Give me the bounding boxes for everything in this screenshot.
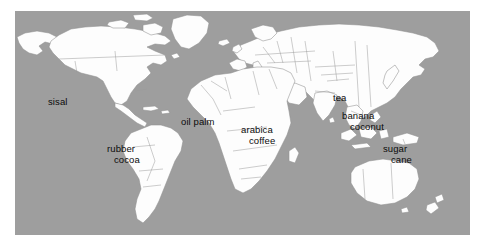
landmass-central-america bbox=[115, 103, 147, 127]
landmass-north-america bbox=[49, 26, 171, 105]
landmass-australia bbox=[351, 159, 419, 205]
landmass-madagascar bbox=[289, 147, 299, 163]
landmass-philippines bbox=[370, 111, 381, 123]
landmass-indochina bbox=[345, 105, 363, 129]
landmass-cuba bbox=[143, 106, 159, 111]
landmass-newfoundland bbox=[171, 53, 180, 59]
landmass-new-zealand-north bbox=[435, 194, 444, 203]
map-frame bbox=[15, 11, 470, 235]
landmass-victoria-island bbox=[107, 20, 129, 28]
landmass-sumatra bbox=[341, 129, 357, 141]
landmass-ellesmere-island bbox=[133, 14, 153, 21]
landmass-tasmania bbox=[401, 207, 409, 213]
landmass-india bbox=[313, 91, 337, 121]
world-crop-origins-figure: sisal rubber cocoa oil palm arabica coff… bbox=[0, 0, 483, 248]
landmass-sulawesi bbox=[379, 129, 389, 139]
landmass-new-zealand-south bbox=[426, 202, 439, 214]
landmass-borneo bbox=[359, 127, 377, 139]
landmass-africa bbox=[187, 67, 295, 193]
landmass-iceland bbox=[218, 39, 230, 46]
landmass-sri-lanka bbox=[329, 117, 335, 123]
landmass-south-america bbox=[123, 125, 183, 223]
world-map-graphic bbox=[15, 11, 470, 235]
landmass-new-guinea bbox=[393, 133, 419, 145]
landmass-greenland bbox=[171, 15, 209, 49]
landmass-hispaniola bbox=[161, 110, 170, 114]
landmass-java bbox=[351, 143, 371, 149]
